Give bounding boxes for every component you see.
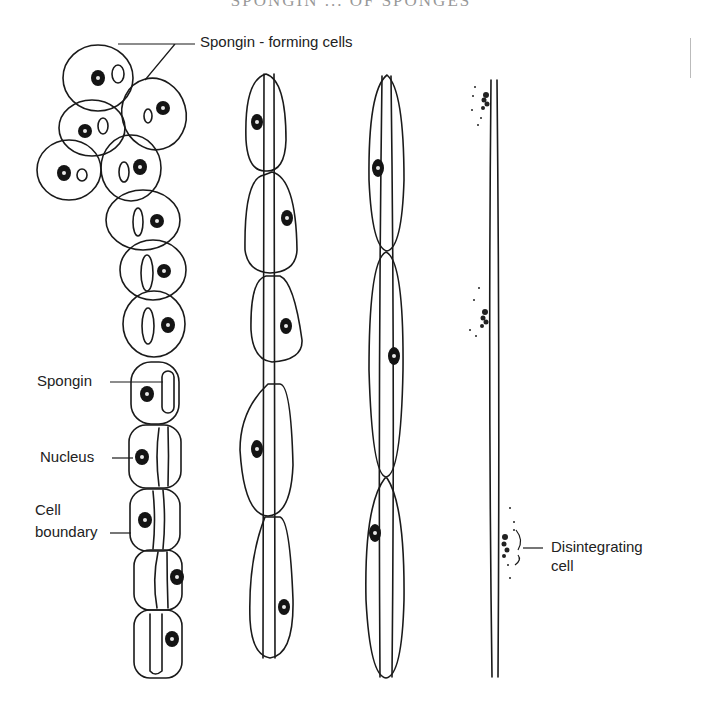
spongin-fiber	[490, 80, 492, 677]
cell	[250, 517, 293, 658]
disintegrating-cell-top	[471, 86, 490, 126]
annotations: Spongin - forming cells Spongin Nucleus …	[35, 33, 643, 574]
spongin-forming-cell	[59, 100, 125, 156]
spongin-rod	[162, 371, 174, 413]
label-cell-boundary-line2: boundary	[35, 523, 98, 540]
spongin-forming-cell	[114, 71, 194, 157]
cell-with-spongin	[131, 362, 179, 424]
stage-1-cell-cluster	[37, 45, 194, 678]
cell	[240, 384, 293, 516]
cell	[366, 478, 404, 678]
spongin-formation-diagram: Spongin - forming cells Spongin Nucleus …	[0, 0, 702, 703]
label-spongin-forming-cells: Spongin - forming cells	[200, 33, 353, 50]
disintegrating-cell-bottom	[502, 507, 521, 579]
label-disintegrating-line1: Disintegrating	[551, 538, 643, 555]
cell	[251, 276, 302, 362]
stage-3-spindle-cells	[366, 75, 404, 678]
label-disintegrating-line2: cell	[551, 557, 574, 574]
stage-2-elongated-cells	[240, 74, 302, 658]
cell	[369, 252, 403, 477]
label-spongin: Spongin	[37, 372, 92, 389]
disintegrating-cell-middle	[469, 287, 489, 337]
label-cell-boundary-line1: Cell	[35, 501, 61, 518]
stage-4-spongin-fiber	[469, 80, 521, 677]
label-nucleus: Nucleus	[40, 448, 94, 465]
